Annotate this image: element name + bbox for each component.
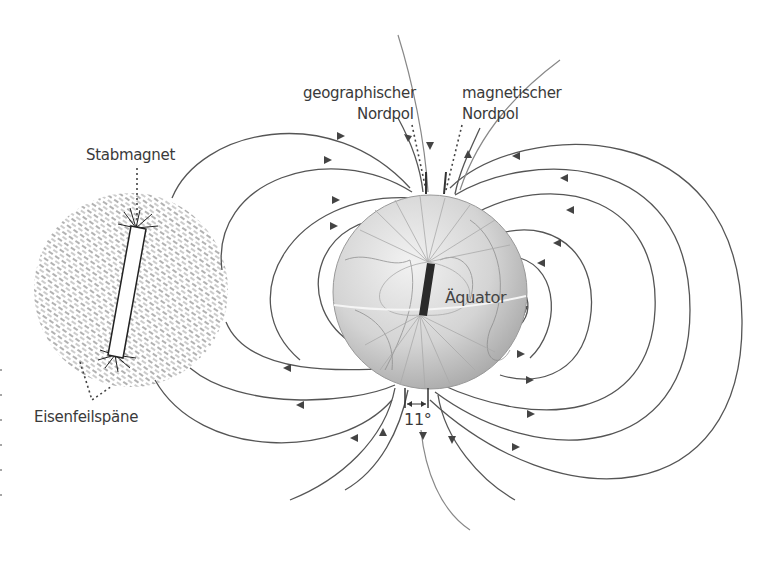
label-declination: 11°	[404, 410, 431, 429]
label-magnetischer-nordpol: Nordpol	[462, 105, 519, 123]
label-eisenfeilspaene: Eisenfeilspäne	[34, 408, 138, 426]
field-lines-bottom	[290, 388, 515, 530]
geographic-north-pointer	[412, 125, 426, 190]
magnetic-axis-top	[444, 172, 446, 194]
label-geographischer-nordpol: Nordpol	[357, 105, 414, 123]
declination-marker: 11°	[404, 388, 431, 429]
label-aequator: Äquator	[445, 288, 507, 307]
edge-artifact-dots	[0, 369, 2, 496]
iron-filings-group	[34, 193, 228, 387]
label-magnetischer: magnetischer	[462, 84, 563, 102]
label-geographischer: geographischer	[303, 84, 417, 102]
label-stabmagnet: Stabmagnet	[86, 146, 175, 164]
magnetic-field-diagram: Stabmagnet Eisenfeilspäne	[0, 0, 765, 572]
earth-group: Äquator	[333, 195, 527, 389]
